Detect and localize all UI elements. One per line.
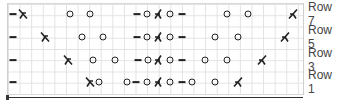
yarn-over-circle-icon xyxy=(112,57,119,64)
yarn-over-circle-icon xyxy=(144,34,151,41)
purl-dash-icon xyxy=(134,36,141,38)
yarn-over-circle-icon xyxy=(90,57,97,64)
yarn-over-circle-icon xyxy=(202,57,209,64)
yarn-over-circle-icon xyxy=(224,11,231,18)
yarn-over-circle-icon xyxy=(145,57,152,64)
yarn-over-circle-icon xyxy=(212,79,219,86)
yarn-over-circle-icon xyxy=(224,57,231,64)
right-leaning-decrease-icon xyxy=(257,55,267,66)
yarn-over-circle-icon xyxy=(87,11,94,18)
purl-dash-icon xyxy=(179,36,186,38)
right-leaning-decrease-icon xyxy=(288,9,298,20)
purl-dash-icon xyxy=(10,36,17,38)
central-double-decrease-icon xyxy=(153,32,163,43)
yarn-over-circle-icon xyxy=(189,79,196,86)
left-leaning-decrease-icon xyxy=(18,9,28,20)
yarn-over-circle-icon xyxy=(144,11,151,18)
purl-dash-icon xyxy=(179,59,186,61)
purl-dash-icon xyxy=(10,13,17,15)
yarn-over-circle-icon xyxy=(212,34,219,41)
right-leaning-decrease-icon xyxy=(233,77,243,88)
left-leaning-decrease-icon xyxy=(63,55,73,66)
yarn-over-circle-icon xyxy=(167,79,174,86)
yarn-over-circle-icon xyxy=(100,34,107,41)
yarn-over-circle-icon xyxy=(124,79,131,86)
yarn-over-circle-icon xyxy=(245,11,252,18)
right-leaning-decrease-icon xyxy=(280,32,290,43)
yarn-over-circle-icon xyxy=(235,34,242,41)
purl-dash-icon xyxy=(179,81,186,83)
purl-dash-icon xyxy=(10,59,17,61)
yarn-over-circle-icon xyxy=(79,34,86,41)
yarn-over-circle-icon xyxy=(67,11,74,18)
purl-dash-icon xyxy=(134,13,141,15)
central-double-decrease-icon xyxy=(153,9,163,20)
left-leaning-decrease-icon xyxy=(85,77,95,88)
central-double-decrease-icon xyxy=(153,55,163,66)
yarn-over-circle-icon xyxy=(96,79,103,86)
left-leaning-decrease-icon xyxy=(40,32,50,43)
central-double-decrease-icon xyxy=(153,77,163,88)
purl-dash-icon xyxy=(179,13,186,15)
yarn-over-circle-icon xyxy=(167,57,174,64)
yarn-over-circle-icon xyxy=(167,34,174,41)
knitting-direction-arrow-icon xyxy=(7,97,303,98)
yarn-over-circle-icon xyxy=(144,79,151,86)
purl-dash-icon xyxy=(10,81,17,83)
purl-dash-icon xyxy=(133,81,140,83)
purl-dash-icon xyxy=(135,59,142,61)
yarn-over-circle-icon xyxy=(167,11,174,18)
row-label: Row 1 xyxy=(308,68,340,96)
